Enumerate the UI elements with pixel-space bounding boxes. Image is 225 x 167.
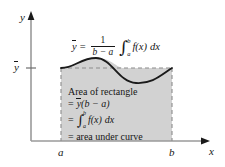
formula-integral: ∫ b a f(x) dx [119,37,160,57]
integral-lower-limit: a [83,123,86,130]
annotation-line-ybar-times-b-minus-a: = y (b − a) [68,99,143,109]
annotation-line-integral: = ∫ b a f(x) dx [68,110,143,129]
annotation-b-minus-a: (b − a) [81,99,109,109]
differential: dx [105,115,114,125]
x-axis-label: x [209,146,214,157]
y-axis-arrowhead [28,11,35,20]
integral-limits: b a [127,37,130,57]
ybar-glyph: y [77,99,81,109]
a-tick-label: a [58,147,64,158]
annotation-ybar-2: y [77,99,81,109]
formula-equals: = [80,41,86,52]
integral-limits: b a [83,110,86,129]
integral-upper-limit: b [83,110,86,117]
ybar-glyph: y [14,62,19,73]
integrand: f(x) [132,41,147,52]
integrand: f(x) [88,115,102,125]
annotation-block: Area of rectangle = y (b − a) = ∫ b a f(… [68,85,143,144]
formula-lhs: y [72,41,77,52]
mean-value-formula: y = 1 b − a ∫ b a f(x) dx [72,36,160,58]
ybar-glyph: y [72,41,77,52]
formula-fraction: 1 b − a [91,36,116,58]
b-tick-label: b [169,147,175,158]
ybar-axis-tick-label: y [14,62,19,73]
integral-upper-limit: b [127,37,130,44]
integral-lower-limit: a [127,50,130,57]
annotation-integral: ∫ b a f(x) dx [77,110,115,129]
fraction-denominator: b − a [91,48,116,58]
differential: dx [150,41,160,52]
annotation-line-area-of-rectangle: Area of rectangle [68,85,143,98]
annotation-line-area-under-curve: = area under curve [68,130,143,143]
y-axis-label: y [20,12,25,23]
annotation-equals-2: = [68,99,74,109]
annotation-equals-3: = [68,115,74,125]
x-axis-arrowhead [201,138,210,145]
fraction-numerator: 1 [99,36,108,46]
